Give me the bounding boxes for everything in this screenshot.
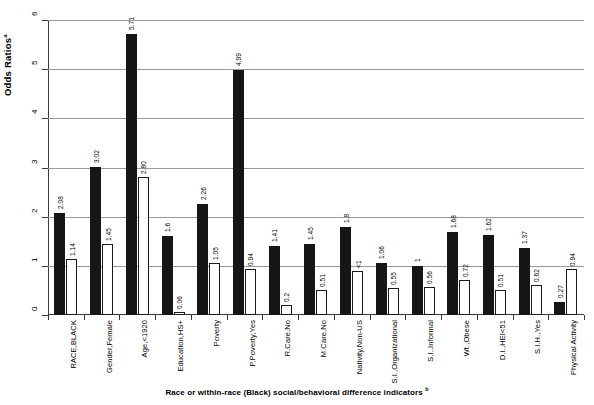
bar-group: 2.261.05	[194, 20, 224, 315]
bar-value-label: 3.02	[93, 149, 100, 162]
y-axis-tick-label: 6	[30, 12, 39, 28]
bar-value-label: <1	[355, 260, 362, 268]
figure: Odds Ratiosa 0123456 2.081.143.021.455.7…	[0, 0, 594, 405]
bar-value-label: 1.8	[343, 213, 350, 222]
x-axis-tick	[584, 315, 585, 320]
bar: 1.14	[66, 259, 77, 315]
bar-value-label: 0.2	[283, 293, 290, 302]
bar: 0.94	[566, 269, 577, 315]
bar-group: 1.410.2	[265, 20, 295, 315]
y-axis-tick-label: 5	[30, 61, 39, 77]
bar: 1.37	[519, 248, 530, 315]
x-axis-category-label: Poverty	[212, 320, 221, 346]
bar: 0.2	[281, 305, 292, 315]
bar-value-label: 1	[414, 258, 421, 262]
x-axis-category-label: P.Poverty,Yes	[248, 320, 257, 367]
x-axis-category-label: RACE,BLACK	[69, 320, 78, 369]
bar-group: 1.60.06	[158, 20, 188, 315]
bar-value-label: 2.26	[200, 187, 207, 200]
x-axis-category-label: S.I.,Informal	[426, 320, 435, 362]
bar-value-label: 1.41	[271, 229, 278, 242]
bar-value-label: 0.62	[533, 268, 540, 281]
bar-value-label: 2.08	[57, 196, 64, 209]
bar-group: 1.060.55	[372, 20, 402, 315]
x-axis-title: Race or within-race (Black) social/behav…	[0, 386, 594, 397]
bar-value-label: 1.45	[105, 228, 112, 241]
x-axis-category-label: Gender,Female	[105, 320, 114, 373]
bar-group: 10.56	[408, 20, 438, 315]
x-axis-title-superscript: b	[425, 386, 428, 392]
bar-group: 4.990.94	[229, 20, 259, 315]
bar-group: 1.620.51	[479, 20, 509, 315]
y-axis-tick-label: 1	[30, 257, 39, 273]
bar-value-label: 2.80	[140, 161, 147, 174]
bar-value-label: 0.55	[390, 272, 397, 285]
y-axis-tick-label: 4	[30, 110, 39, 126]
x-axis-category-label: Age,<1920	[140, 320, 149, 357]
bar-group: 3.021.45	[87, 20, 117, 315]
bar: 1.06	[376, 263, 387, 315]
x-axis-category-labels: RACE,BLACKGender,FemaleAge,<1920Educatio…	[48, 320, 584, 382]
bar: 0.55	[388, 288, 399, 315]
bar-value-label: 1.06	[378, 246, 385, 259]
bar-value-label: 4.99	[235, 53, 242, 66]
bar-group: 1.680.72	[444, 20, 474, 315]
bar-groups: 2.081.143.021.455.712.801.60.062.261.054…	[48, 20, 584, 315]
bar-value-label: 1.45	[307, 227, 314, 240]
bar: 1.6	[162, 236, 173, 315]
bar-group: 1.450.51	[301, 20, 331, 315]
x-axis-category-label: S.I.H.,Yes	[533, 320, 542, 354]
bar-value-label: 0.94	[247, 253, 254, 266]
y-axis-tick-label: 3	[30, 159, 39, 175]
plot-inner: 0123456 2.081.143.021.455.712.801.60.062…	[48, 20, 584, 315]
bar-value-label: 1.68	[450, 215, 457, 228]
bar-value-label: 0.56	[426, 271, 433, 284]
bar: 4.99	[233, 70, 244, 315]
x-axis-category-label: Nativity,Non-US	[355, 320, 364, 374]
bar: 2.08	[54, 213, 65, 315]
bar: 0.62	[531, 285, 542, 315]
y-axis-title-text: Odds Ratios	[2, 38, 13, 96]
x-axis-category-label: S.I.,Organizational	[390, 320, 399, 384]
bar-value-label: 5.71	[128, 17, 135, 30]
bar: 1.68	[447, 232, 458, 315]
bar-value-label: 1.14	[69, 243, 76, 256]
x-axis-category-label: R.Care,No	[283, 320, 292, 356]
bar-value-label: 1.62	[485, 218, 492, 231]
bar-value-label: 0.72	[462, 264, 469, 277]
bar: 1.05	[209, 263, 220, 315]
bar-group: 0.270.94	[551, 20, 581, 315]
bar: 0.94	[245, 269, 256, 315]
y-axis-title-superscript: a	[2, 34, 8, 38]
bar: 1	[412, 266, 423, 315]
bar-value-label: 0.27	[557, 285, 564, 298]
bar: 5.71	[126, 34, 137, 315]
bar-value-label: 1.05	[212, 247, 219, 260]
bar-value-label: 0.51	[319, 274, 326, 287]
bar: <1	[352, 271, 363, 315]
bar: 0.72	[459, 280, 470, 315]
x-axis-title-text: Race or within-race (Black) social/behav…	[165, 388, 422, 397]
x-axis-category-label: D.I.,HEI<51	[498, 320, 507, 360]
bar: 0.56	[424, 287, 435, 315]
plot-area: 0123456 2.081.143.021.455.712.801.60.062…	[48, 20, 584, 315]
bar: 2.80	[138, 177, 149, 315]
bar-value-label: 0.06	[176, 296, 183, 309]
bar: 1.62	[483, 235, 494, 315]
bar: 0.27	[554, 302, 565, 315]
bar-group: 1.370.62	[515, 20, 545, 315]
bar: 1.41	[269, 246, 280, 315]
bar: 1.45	[102, 244, 113, 315]
bar-value-label: 1.6	[164, 223, 171, 232]
bar: 0.51	[495, 290, 506, 315]
y-axis-tick-label: 0	[30, 307, 39, 323]
bar-value-label: 0.94	[569, 253, 576, 266]
bar-value-label: 0.51	[497, 274, 504, 287]
bar-group: 5.712.80	[122, 20, 152, 315]
y-axis-title: Odds Ratiosa	[2, 0, 13, 96]
x-axis-category-label: Wt.,Obese	[462, 320, 471, 356]
y-axis-tick-label: 2	[30, 208, 39, 224]
x-axis-category-label: M.Care,No	[319, 320, 328, 357]
bar-value-label: 1.37	[521, 231, 528, 244]
x-axis-category-label: Physical Activity	[569, 320, 578, 375]
